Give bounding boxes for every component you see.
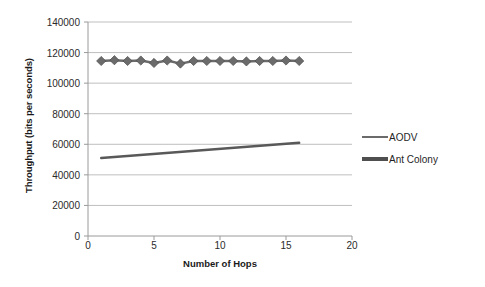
legend-entry: Ant Colony xyxy=(362,148,480,170)
data-point-marker xyxy=(136,56,145,65)
data-point-marker xyxy=(242,57,251,66)
y-tick-label: 60000 xyxy=(52,139,80,150)
x-tick-label: 10 xyxy=(214,240,225,251)
data-point-marker xyxy=(110,56,119,65)
data-point-marker xyxy=(229,56,238,65)
x-tick-label: 0 xyxy=(85,240,91,251)
y-tick-label: 80000 xyxy=(52,108,80,119)
y-axis-tick-labels: 020000400006000080000100000120000140000 xyxy=(22,22,84,236)
legend-label: Ant Colony xyxy=(389,154,438,165)
y-tick-label: 140000 xyxy=(47,17,80,28)
x-tick-label: 15 xyxy=(280,240,291,251)
data-point-marker xyxy=(97,56,106,65)
data-point-marker xyxy=(149,58,158,67)
data-point-marker xyxy=(202,56,211,65)
chart-plot-svg xyxy=(88,22,352,236)
data-point-marker xyxy=(189,56,198,65)
data-point-marker xyxy=(163,56,172,65)
legend-swatch xyxy=(362,136,388,139)
data-point-marker xyxy=(255,56,264,65)
data-point-marker xyxy=(268,56,277,65)
x-axis-title: Number of Hops xyxy=(88,258,352,269)
legend-entry: AODV xyxy=(362,126,480,148)
chart-container: Throughput (bits per seconds) 0200004000… xyxy=(0,0,485,287)
y-tick-label: 100000 xyxy=(47,78,80,89)
series-line-ant-colony xyxy=(101,143,299,158)
y-tick-label: 120000 xyxy=(47,47,80,58)
legend-swatch xyxy=(362,157,388,160)
legend-label: AODV xyxy=(389,132,417,143)
data-point-marker xyxy=(295,56,304,65)
data-point-marker xyxy=(281,56,290,65)
data-point-marker xyxy=(176,59,185,68)
chart-legend: AODVAnt Colony xyxy=(362,126,480,170)
x-axis-tick-labels: 05101520 xyxy=(88,240,352,256)
data-point-marker xyxy=(123,56,132,65)
x-tick-label: 5 xyxy=(151,240,157,251)
data-point-marker xyxy=(215,56,224,65)
x-tick-label: 20 xyxy=(346,240,357,251)
y-tick-label: 40000 xyxy=(52,169,80,180)
plot-area xyxy=(88,22,352,236)
y-tick-label: 0 xyxy=(74,231,80,242)
y-tick-label: 20000 xyxy=(52,200,80,211)
